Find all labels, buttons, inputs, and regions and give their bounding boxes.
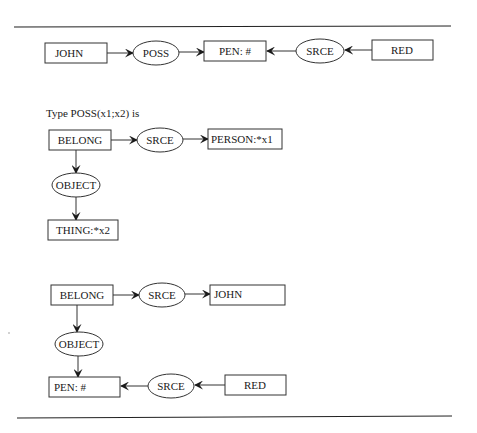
- node-john-label: JOHN: [55, 47, 83, 59]
- bottom-divider: [17, 416, 452, 418]
- node-object-label: OBJECT: [59, 338, 100, 350]
- node-pen-label: PEN: #: [219, 45, 252, 57]
- node-john-label: JOHN: [214, 288, 242, 300]
- node-red-label: RED: [244, 379, 266, 391]
- graph-3: BELONG SRCE JOHN OBJECT PEN: # SRCE RED: [49, 283, 286, 398]
- node-srce-label: SRCE: [146, 134, 174, 146]
- node-red-label: RED: [391, 44, 413, 56]
- node-thing-label: THING:*x2: [56, 224, 110, 236]
- node-srce2-label: SRCE: [157, 380, 185, 392]
- node-belong-label: BELONG: [58, 134, 103, 146]
- node-person-label: PERSON:*x1: [211, 133, 273, 145]
- scan-artifact: [8, 332, 10, 334]
- node-pen-label: PEN: #: [54, 381, 87, 393]
- node-object-label: OBJECT: [56, 179, 97, 191]
- node-srce-label: SRCE: [148, 289, 176, 301]
- node-poss-label: POSS: [143, 47, 169, 59]
- graph-1: JOHN POSS PEN: # SRCE RED: [45, 39, 433, 65]
- type-definition-caption: Type POSS(x1;x2) is: [46, 107, 139, 120]
- top-divider: [14, 26, 451, 27]
- node-belong-label: BELONG: [60, 289, 105, 301]
- conceptual-graph-figure: JOHN POSS PEN: # SRCE RED Type POSS(x1;x…: [0, 0, 477, 433]
- node-srce-label: SRCE: [306, 45, 334, 57]
- graph-2: BELONG SRCE PERSON:*x1 OBJECT THING:*x2: [48, 128, 282, 240]
